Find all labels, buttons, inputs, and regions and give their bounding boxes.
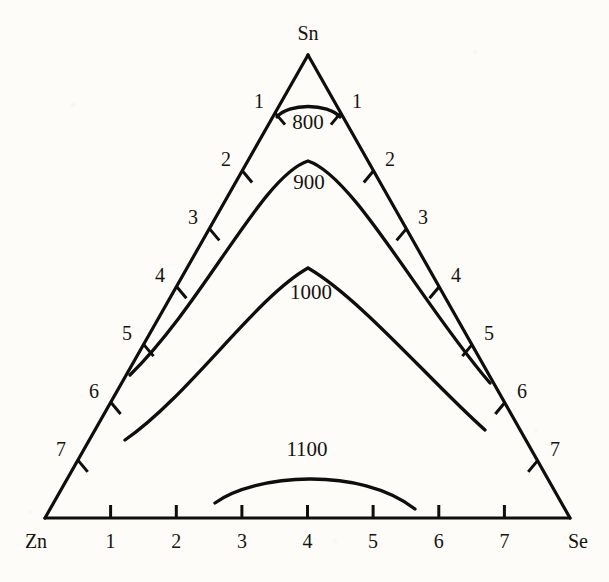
vertex-label-zn: Zn xyxy=(25,530,47,552)
bottom-axis-label-2: 2 xyxy=(171,530,181,552)
right-axis-label-5: 5 xyxy=(484,322,494,344)
isotherm-label-1100: 1100 xyxy=(286,437,327,461)
isotherm-label-900: 900 xyxy=(293,170,325,194)
isotherm-curve-1100 xyxy=(215,479,415,509)
right-tick-2 xyxy=(364,171,374,183)
left-tick-2 xyxy=(242,171,252,183)
right-tick-3 xyxy=(397,229,407,241)
right-axis-label-4: 4 xyxy=(451,264,461,286)
right-tick-4 xyxy=(430,287,440,299)
bottom-axis-label-6: 6 xyxy=(434,530,444,552)
left-axis-label-1: 1 xyxy=(254,90,264,112)
left-tick-7 xyxy=(78,460,88,472)
right-axis-ticks xyxy=(331,113,538,472)
left-axis-label-5: 5 xyxy=(122,322,132,344)
bottom-axis-label-5: 5 xyxy=(368,530,378,552)
bottom-axis-label-1: 1 xyxy=(106,530,116,552)
right-axis-label-7: 7 xyxy=(550,438,560,460)
right-axis-label-2: 2 xyxy=(385,148,395,170)
left-axis-label-7: 7 xyxy=(56,438,66,460)
ternary-diagram-figure: Sn Zn Se 1 2 3 4 5 6 7 1 2 3 4 5 6 7 1 2… xyxy=(0,0,609,582)
left-axis-ticks xyxy=(78,113,285,472)
right-axis-label-1: 1 xyxy=(352,90,362,112)
left-axis-label-6: 6 xyxy=(89,380,99,402)
bottom-axis-label-7: 7 xyxy=(499,530,509,552)
right-axis-label-3: 3 xyxy=(418,206,428,228)
left-tick-6 xyxy=(111,402,121,414)
isotherm-label-800: 800 xyxy=(292,110,324,134)
diagram-canvas: Sn Zn Se 1 2 3 4 5 6 7 1 2 3 4 5 6 7 1 2… xyxy=(0,0,609,582)
left-axis-label-4: 4 xyxy=(155,264,165,286)
right-tick-6 xyxy=(495,402,505,414)
vertex-label-se: Se xyxy=(568,530,588,552)
bottom-axis-label-4: 4 xyxy=(303,530,313,552)
vertex-label-sn: Sn xyxy=(297,22,318,44)
bottom-axis-label-3: 3 xyxy=(237,530,247,552)
right-axis-label-6: 6 xyxy=(517,380,527,402)
isotherm-label-1000: 1000 xyxy=(290,280,332,304)
left-tick-4 xyxy=(177,287,187,299)
right-tick-7 xyxy=(528,460,538,472)
left-tick-3 xyxy=(209,229,219,241)
bottom-axis-ticks xyxy=(111,505,505,518)
left-axis-label-2: 2 xyxy=(221,148,231,170)
left-axis-label-3: 3 xyxy=(188,206,198,228)
